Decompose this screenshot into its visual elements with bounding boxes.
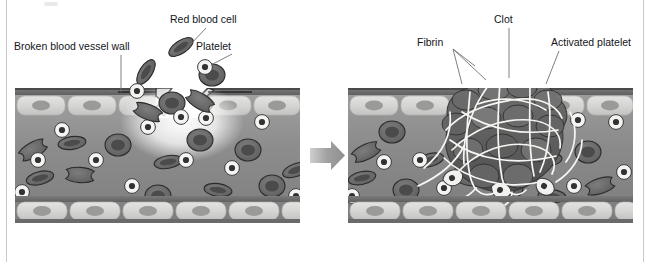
panel-after: Fibrin Clot Activated platelet	[345, 13, 637, 223]
label-red-blood-cell-text: Red blood cell	[170, 13, 237, 25]
clotting-figure: Broken blood vessel wall Red blood cell …	[0, 0, 650, 262]
label-broken-wall-text: Broken blood vessel wall	[14, 40, 130, 52]
leader-fibrin-2	[453, 49, 486, 80]
leader-fibrin-3	[453, 49, 462, 84]
label-broken-wall: Broken blood vessel wall	[14, 40, 130, 92]
page-rule-left	[6, 0, 7, 262]
leader-platelet	[211, 54, 232, 65]
label-platelet-text: Platelet	[196, 40, 231, 52]
label-activated-platelet: Activated platelet	[546, 36, 631, 84]
right-arrow-icon	[310, 141, 345, 170]
panel-before: Broken blood vessel wall Red blood cell …	[14, 13, 311, 223]
figure-canvas: Broken blood vessel wall Red blood cell …	[0, 0, 650, 262]
leader-activated-platelet	[546, 51, 559, 84]
endothelium-bottom	[15, 196, 306, 223]
label-clot: Clot	[494, 13, 513, 78]
page-rule-right	[643, 0, 644, 262]
scan-artifact-speck	[44, 2, 58, 6]
label-fibrin-text: Fibrin	[417, 36, 443, 48]
label-clot-text: Clot	[494, 13, 513, 25]
endothelium-bottom-after	[348, 196, 637, 223]
label-fibrin: Fibrin	[417, 36, 486, 84]
label-activated-platelet-text: Activated platelet	[551, 36, 631, 48]
